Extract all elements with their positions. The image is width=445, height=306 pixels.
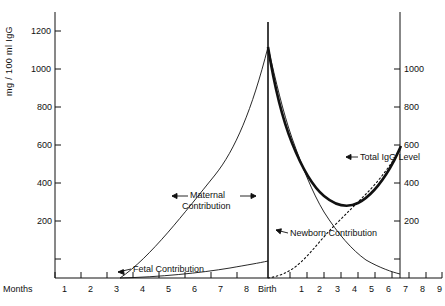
annotation-arrows <box>118 154 358 274</box>
maternal-arrowhead-left <box>172 193 177 198</box>
series-fetal-contribution <box>120 261 268 278</box>
y-ticks-left <box>55 31 61 259</box>
total-igg-arrowhead <box>346 154 351 159</box>
fetal-arrowhead <box>118 270 124 275</box>
series-newborn-contribution <box>268 150 400 278</box>
x-ticks <box>55 272 442 278</box>
series-maternal-contribution <box>120 47 400 278</box>
y-ticks-right <box>394 69 400 259</box>
chart-svg <box>0 0 445 306</box>
axis-lines <box>55 12 442 278</box>
maternal-arrowhead-right <box>251 193 256 198</box>
chart-container: mg / 100 ml IgG 1200 1000 800 600 400 20… <box>0 0 445 306</box>
newborn-arrowhead <box>276 229 281 234</box>
